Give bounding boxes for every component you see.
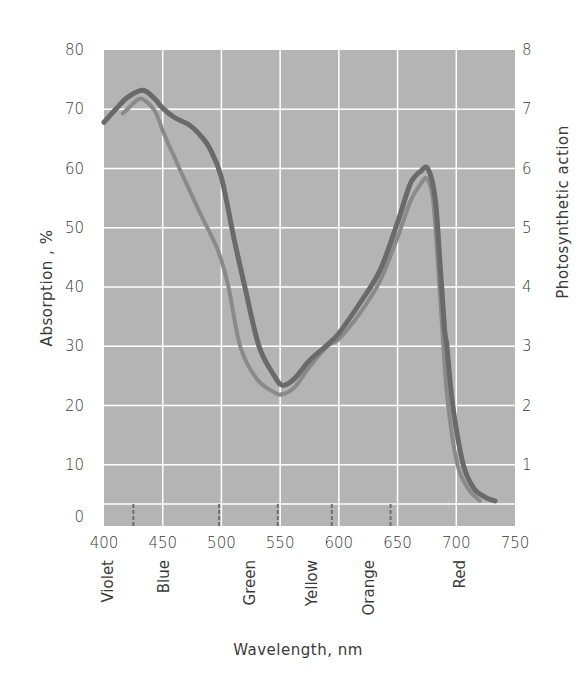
left-tick-label: 80 <box>65 41 84 59</box>
x-tick-label: 750 <box>501 534 530 552</box>
right-tick-label: 8 <box>522 41 532 59</box>
left-axis-tick-labels: 01020304050607080 <box>65 41 84 526</box>
absorption-action-chart: 01020304050607080 12345678 4004505005506… <box>0 0 579 684</box>
x-tick-label: 450 <box>148 534 177 552</box>
x-axis-tick-labels: 400450500550600650700750 <box>90 534 530 552</box>
band-label-red: Red <box>451 560 469 589</box>
right-tick-label: 1 <box>522 456 532 474</box>
left-tick-label: 10 <box>65 456 84 474</box>
right-tick-label: 6 <box>522 160 532 178</box>
left-axis-title: Absorption , % <box>38 230 56 347</box>
x-tick-label: 500 <box>207 534 236 552</box>
spectrum-band-labels: VioletBlueGreenYellowOrangeRed <box>99 560 469 616</box>
band-label-violet: Violet <box>99 560 117 603</box>
band-label-green: Green <box>241 560 259 605</box>
x-tick-label: 650 <box>383 534 412 552</box>
band-label-blue: Blue <box>155 560 173 593</box>
x-axis-title: Wavelength, nm <box>233 641 363 659</box>
left-tick-label: 50 <box>65 219 84 237</box>
right-tick-label: 2 <box>522 397 532 415</box>
left-tick-label: 0 <box>74 508 84 526</box>
left-tick-label: 30 <box>65 337 84 355</box>
band-label-orange: Orange <box>360 560 378 615</box>
right-axis-tick-labels: 12345678 <box>522 41 532 474</box>
right-tick-label: 4 <box>522 278 532 296</box>
left-tick-label: 20 <box>65 397 84 415</box>
right-tick-label: 5 <box>522 219 532 237</box>
x-tick-label: 400 <box>90 534 119 552</box>
left-tick-label: 40 <box>65 278 84 296</box>
right-axis-title: Photosynthetic action <box>554 125 572 298</box>
right-tick-label: 3 <box>522 337 532 355</box>
band-label-yellow: Yellow <box>303 560 321 607</box>
x-tick-label: 600 <box>325 534 354 552</box>
left-tick-label: 70 <box>65 100 84 118</box>
x-tick-label: 550 <box>266 534 295 552</box>
right-tick-label: 7 <box>522 100 532 118</box>
x-tick-label: 700 <box>442 534 471 552</box>
left-tick-label: 60 <box>65 160 84 178</box>
